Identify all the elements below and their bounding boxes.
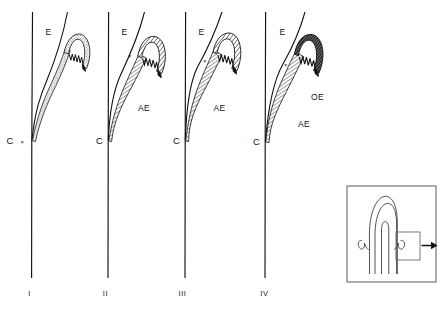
inset-box: [347, 186, 438, 282]
panel-3-number: III: [178, 289, 186, 298]
panel-2-stalk: [109, 54, 147, 141]
panel-3-label-E: E: [199, 27, 205, 37]
panel-2-number: II: [103, 289, 108, 298]
panel-2-marker: ×: [128, 53, 132, 59]
panel-3-label-C: C: [173, 135, 180, 146]
panel-4-label-AE: AE: [298, 119, 310, 129]
panel-2-label-E: E: [122, 27, 128, 37]
panel-4-label-OE: OE: [311, 92, 324, 102]
panel-1-serration: [69, 54, 83, 65]
inset-border: [347, 186, 436, 282]
panel-1-marker: ×: [21, 139, 25, 145]
panel-2-label-AE: AE: [138, 103, 150, 113]
panel-2-baseline: [108, 12, 109, 278]
panel-1-stalk: [32, 48, 70, 142]
panel-3: × C E AE III: [173, 12, 241, 298]
panel-3-baseline: [185, 12, 186, 278]
panel-4-label-C: C: [253, 136, 260, 147]
panel-1-hook: [64, 34, 90, 69]
panel-4-label-E: E: [280, 27, 286, 37]
panel-1-baseline: [32, 12, 33, 278]
diagram-canvas: × C E I × C E AE II × C E AE III: [0, 0, 444, 311]
panel-1-number: I: [28, 289, 31, 298]
figure-root: × C E I × C E AE II × C E AE III: [0, 0, 444, 311]
panel-4: × C E OE AE IV: [253, 12, 324, 298]
panel-1: × C E I: [7, 12, 90, 298]
panel-3-label-AE: AE: [214, 103, 226, 113]
panel-3-marker: ×: [203, 58, 207, 64]
panel-2: × C E AE II: [96, 12, 165, 298]
panel-1-label-E: E: [46, 27, 52, 37]
panel-2-label-C: C: [96, 135, 103, 146]
panel-4-baseline: [265, 12, 266, 278]
panel-1-label-C: C: [7, 135, 14, 146]
panel-4-number: IV: [260, 289, 268, 298]
panel-4-marker: ×: [284, 62, 288, 68]
